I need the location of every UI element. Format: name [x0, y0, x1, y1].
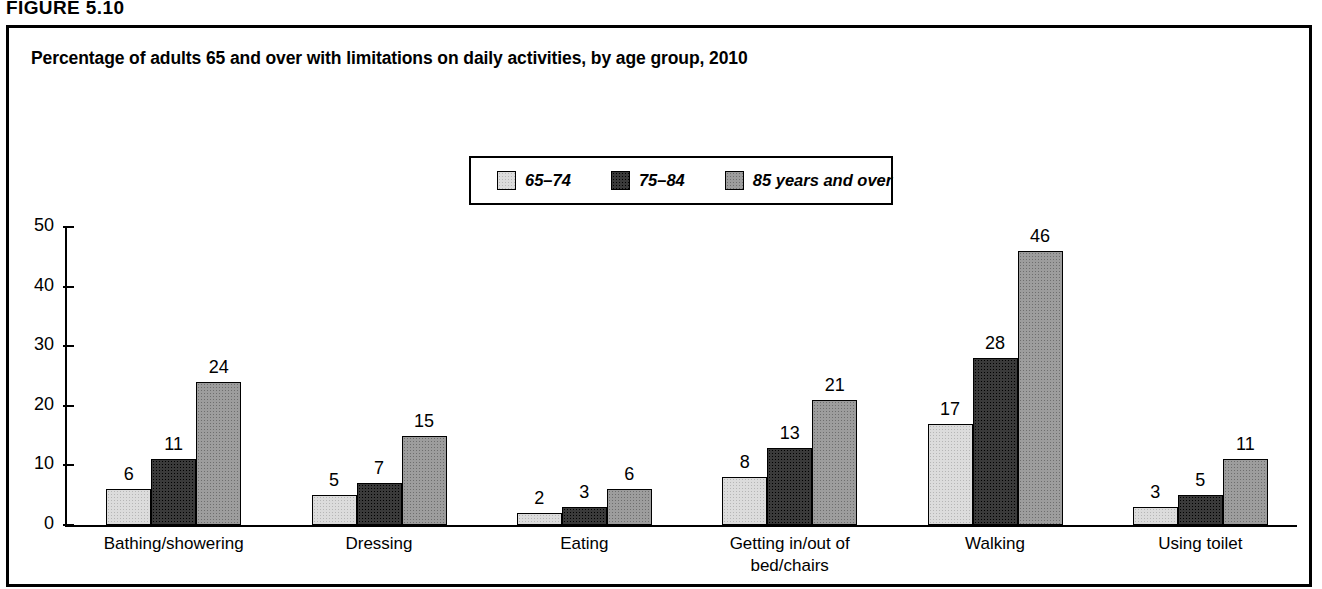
legend-label: 65–74 — [525, 171, 571, 190]
bar-slot: 46 — [1018, 227, 1063, 525]
bar[interactable]: 11 — [151, 459, 196, 525]
bar-slot: 17 — [928, 227, 973, 525]
bar-group: 172846 — [928, 227, 1063, 525]
x-axis-category-label: Using toilet — [1158, 533, 1242, 555]
y-axis-tick-label: 30 — [34, 334, 54, 355]
bar-value-label: 3 — [579, 482, 589, 503]
x-axis-category-label: Getting in/out of bed/chairs — [730, 533, 850, 577]
bar-slot: 5 — [312, 227, 357, 525]
bar[interactable]: 7 — [357, 483, 402, 525]
bar-group: 5715 — [312, 227, 447, 525]
bar-slot: 24 — [196, 227, 241, 525]
figure-frame: Percentage of adults 65 and over with li… — [6, 25, 1312, 587]
bar-slot: 21 — [812, 227, 857, 525]
x-axis-category-label: Walking — [965, 533, 1025, 555]
bar-value-label: 5 — [329, 470, 339, 491]
bar-slot: 6 — [106, 227, 151, 525]
figure-page: FIGURE 5.10 Percentage of adults 65 and … — [0, 0, 1322, 589]
bar-value-label: 5 — [1195, 470, 1205, 491]
bar-value-label: 11 — [1236, 434, 1255, 455]
bar-slot: 13 — [767, 227, 812, 525]
bar-value-label: 8 — [740, 452, 750, 473]
x-axis-category-label: Bathing/showering — [104, 533, 244, 555]
x-axis-category-label: Eating — [560, 533, 608, 555]
chart-legend: 65–74 75–84 85 years and over — [469, 156, 893, 205]
bar[interactable]: 5 — [312, 495, 357, 525]
figure-header: FIGURE 5.10 — [6, 0, 124, 19]
bar-slot: 11 — [151, 227, 196, 525]
legend-label: 75–84 — [639, 171, 685, 190]
x-axis-category-label: Dressing — [345, 533, 412, 555]
y-axis-tick-label: 20 — [34, 394, 54, 415]
bar-value-label: 11 — [164, 434, 183, 455]
bar-group: 3511 — [1133, 227, 1268, 525]
bar-slot: 11 — [1223, 227, 1268, 525]
bar[interactable]: 5 — [1178, 495, 1223, 525]
bar-slot: 6 — [607, 227, 652, 525]
bar-slot: 15 — [402, 227, 447, 525]
bar-group: 61124 — [106, 227, 241, 525]
bar-value-label: 2 — [534, 488, 544, 509]
bar[interactable]: 13 — [767, 448, 812, 525]
legend-swatch-icon — [497, 171, 516, 190]
bar[interactable]: 11 — [1223, 459, 1268, 525]
x-axis-line — [65, 525, 1297, 527]
bar[interactable]: 46 — [1018, 251, 1063, 525]
y-axis-tick-label: 10 — [34, 453, 54, 474]
bar-slot: 5 — [1178, 227, 1223, 525]
bar-value-label: 24 — [209, 357, 229, 378]
bar-value-label: 6 — [624, 464, 634, 485]
legend-swatch-icon — [725, 171, 744, 190]
bar[interactable]: 6 — [607, 489, 652, 525]
legend-item[interactable]: 75–84 — [611, 171, 685, 190]
bar[interactable]: 28 — [973, 358, 1018, 525]
chart-title: Percentage of adults 65 and over with li… — [31, 48, 748, 69]
bar-value-label: 21 — [825, 375, 845, 396]
legend-label: 85 years and over — [753, 171, 892, 190]
y-axis-tick-label: 0 — [44, 513, 54, 534]
bar-slot: 3 — [562, 227, 607, 525]
bar[interactable]: 15 — [402, 436, 447, 525]
bar-value-label: 28 — [985, 333, 1005, 354]
bar[interactable]: 3 — [1133, 507, 1178, 525]
bar[interactable]: 2 — [517, 513, 562, 525]
bar[interactable]: 8 — [722, 477, 767, 525]
bar-value-label: 3 — [1150, 482, 1160, 503]
legend-item[interactable]: 85 years and over — [725, 171, 892, 190]
bar-value-label: 13 — [780, 423, 800, 444]
y-axis-tick-label: 40 — [34, 275, 54, 296]
bar-slot: 3 — [1133, 227, 1178, 525]
legend-swatch-icon — [611, 171, 630, 190]
y-axis-tick-label: 50 — [34, 215, 54, 236]
bar-value-label: 15 — [414, 411, 434, 432]
bar[interactable]: 24 — [196, 382, 241, 525]
bar-slot: 2 — [517, 227, 562, 525]
bars-layer: 611245715236813211728463511 — [65, 227, 1297, 525]
bar[interactable]: 3 — [562, 507, 607, 525]
bar[interactable]: 21 — [812, 400, 857, 525]
bar[interactable]: 17 — [928, 424, 973, 525]
bar-value-label: 46 — [1030, 226, 1050, 247]
bar-value-label: 7 — [374, 458, 384, 479]
plot-area: 01020304050 611245715236813211728463511 — [65, 227, 1297, 525]
bar-group: 236 — [517, 227, 652, 525]
bar-value-label: 17 — [940, 399, 960, 420]
bar-slot: 8 — [722, 227, 767, 525]
bar[interactable]: 6 — [106, 489, 151, 525]
bar-group: 81321 — [722, 227, 857, 525]
x-axis-category-labels: Bathing/showeringDressingEatingGetting i… — [65, 533, 1297, 589]
bar-value-label: 6 — [124, 464, 134, 485]
bar-slot: 7 — [357, 227, 402, 525]
bar-slot: 28 — [973, 227, 1018, 525]
legend-item[interactable]: 65–74 — [497, 171, 571, 190]
